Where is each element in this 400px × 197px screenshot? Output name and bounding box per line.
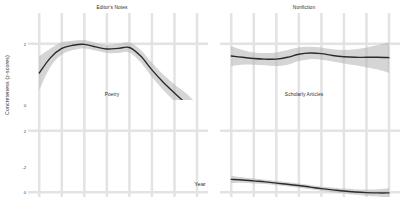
- facet-row-bottom: Poetry 20-2 2004200620082010201220142016…: [16, 89, 400, 174]
- facet-panel-nonfiction: Nonfiction: [208, 2, 400, 87]
- facet-panel-editors-notes: Editor's Notes 20-2: [16, 2, 208, 87]
- facet-grid: Editor's Notes 20-2 Nonfiction Poetry 20…: [16, 2, 400, 176]
- facet-panel-poetry: Poetry 20-2 2004200620082010201220142016…: [16, 89, 208, 174]
- facet-row-top: Editor's Notes 20-2 Nonfiction: [16, 2, 400, 87]
- concreteness-trends-figure: Concreteness (z-scores) Editor's Notes 2…: [0, 0, 400, 197]
- y-tick-label: 2: [24, 41, 26, 46]
- facet-title-poetry: Poetry: [16, 89, 208, 100]
- facet-panel-scholarly-articles: Scholarly Articles 200420062008201020122…: [208, 89, 400, 174]
- facet-title-scholarly-articles: Scholarly Articles: [208, 89, 400, 100]
- facet-title-nonfiction: Nonfiction: [208, 2, 400, 13]
- y-axis-title-label: Concreteness (z-scores): [4, 55, 10, 115]
- y-tick-label: 0: [24, 190, 26, 195]
- y-tick-label: 2: [24, 128, 26, 133]
- facet-title-editors-notes: Editor's Notes: [16, 2, 208, 13]
- y-axis-title: Concreteness (z-scores): [0, 0, 14, 170]
- x-axis-title: Year: [0, 181, 400, 187]
